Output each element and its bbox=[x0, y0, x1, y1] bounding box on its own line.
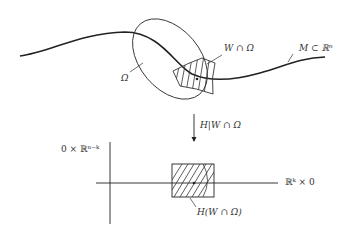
manifold-curve bbox=[20, 32, 325, 79]
diagram: Ω W ∩ Ω M ⊂ ℝⁿ H|W ∩ Ω 0 × ℝⁿ⁻ᵏ ℝᵏ × 0 H… bbox=[0, 0, 352, 237]
manifold-label: M ⊂ ℝⁿ bbox=[299, 44, 333, 53]
image-point bbox=[193, 182, 196, 185]
image-label: H(W ∩ Ω) bbox=[197, 208, 242, 217]
m-leader bbox=[288, 54, 293, 62]
down-arrow-icon bbox=[192, 114, 197, 142]
image-box-region bbox=[172, 164, 214, 197]
restriction-map-label: H|W ∩ Ω bbox=[200, 121, 241, 130]
diagram-canvas bbox=[0, 0, 352, 237]
omega-label: Ω bbox=[121, 74, 128, 83]
omega-ellipse bbox=[117, 4, 222, 113]
horizontal-axis-label: ℝᵏ × 0 bbox=[285, 178, 315, 187]
box-leader bbox=[190, 198, 196, 207]
vertical-axis-label: 0 × ℝⁿ⁻ᵏ bbox=[61, 145, 99, 154]
w-cap-omega-label: W ∩ Ω bbox=[224, 44, 254, 53]
base-point bbox=[196, 78, 199, 81]
